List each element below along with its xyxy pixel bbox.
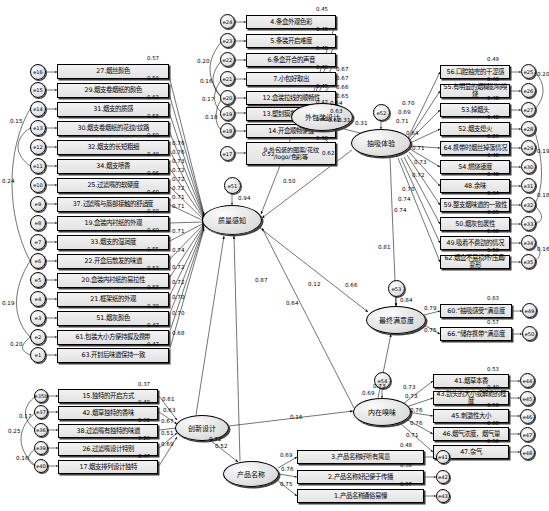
loading-38: 0.67 <box>161 418 173 424</box>
error-e49: e49 <box>522 303 537 318</box>
r2-29: 0.59 <box>147 75 159 81</box>
indicator-53: 53.掉烟头 <box>440 103 510 117</box>
loading-55: 0.69 <box>398 109 410 115</box>
loading-33: 0.71 <box>172 228 184 234</box>
loading-54: 0.73 <box>414 159 426 165</box>
error-e10: e10 <box>30 177 46 193</box>
loading-26: 0.51 <box>161 430 173 436</box>
loading-59: 0.70 <box>402 186 414 192</box>
indicator-54: 54.燃烧速度 <box>440 160 510 174</box>
error-e22: e22 <box>220 52 235 67</box>
loading-56: 0.70 <box>402 100 414 106</box>
r2-31: 0.63 <box>147 94 159 100</box>
loading-32: 0.72 <box>172 167 184 173</box>
corr-e-4: 0.16 <box>537 246 549 252</box>
error-e6: e6 <box>30 253 46 269</box>
r2-45: 0.59 <box>487 402 499 408</box>
r2-7: 0.46 <box>316 64 328 70</box>
error-e8: e8 <box>30 215 46 231</box>
loading-19: 0.71 <box>172 203 184 209</box>
r2-43: 0.49 <box>487 384 499 390</box>
corr-q-4: 0.20 <box>10 341 22 347</box>
r2-15: 0.37 <box>138 381 150 387</box>
corr-i-2: 0.25 <box>8 428 20 434</box>
r2-46: 0.60 <box>487 420 499 426</box>
path-coef-name-quality: 0.64 <box>286 300 298 306</box>
r2-2: 0.58 <box>400 462 412 468</box>
loading-29: 0.76 <box>172 140 184 146</box>
error-e3: e3 <box>30 310 46 326</box>
error-e39: e39 <box>34 441 48 455</box>
loading-52: 0.64 <box>406 130 418 136</box>
error-e32: e32 <box>521 197 536 212</box>
error-e40: e40 <box>34 459 48 473</box>
path-coef-quality-satisfaction: 0.12 <box>308 281 320 287</box>
loading-41: 0.73 <box>403 384 415 390</box>
r2-26: 0.26 <box>138 435 150 441</box>
error-e9: e9 <box>30 196 46 212</box>
path-coef-intrinsic-satisfaction: 0.73 <box>373 383 385 389</box>
r2-59: 0.64 <box>487 190 499 196</box>
r2-56: 0.49 <box>487 56 499 62</box>
error-e19: e19 <box>220 106 235 121</box>
dist-loading-e53: 0.84 <box>400 297 412 303</box>
loading-20: 0.72 <box>172 264 184 270</box>
corr-q-2: 0.24 <box>2 178 14 184</box>
r2-34: 0.49 <box>147 151 159 157</box>
r2-14: 0.41 <box>316 116 328 122</box>
error-e13: e13 <box>30 120 46 136</box>
disturbance-e52: e52 <box>373 104 390 121</box>
error-e29: e29 <box>521 140 536 155</box>
error-e45: e45 <box>520 391 535 406</box>
loading-46: 0.76 <box>410 420 422 426</box>
corr-e-2: 0.19 <box>537 148 549 154</box>
loading-13: 0.63 <box>330 108 342 114</box>
path-coef-innovation-name: 0.52 <box>215 443 227 449</box>
dist-loading-e51: 0.94 <box>238 195 250 201</box>
latent-satisfaction: 最终满意度 <box>366 306 426 334</box>
error-e46: e46 <box>520 409 535 424</box>
error-e28: e28 <box>521 121 536 136</box>
r2-38: 0.39 <box>138 417 150 423</box>
error-e44: e44 <box>520 373 535 388</box>
r2-5: 0.48 <box>316 26 328 32</box>
r2-9: 0.38 <box>316 135 328 141</box>
r2-22: 0.55 <box>147 246 159 252</box>
r2-33: 0.60 <box>147 227 159 233</box>
corr-e-1: 0.20 <box>537 71 549 77</box>
error-e24: e24 <box>220 14 235 29</box>
loading-66: 0.75 <box>424 327 436 333</box>
error-e26: e26 <box>521 83 536 98</box>
error-e14: e14 <box>30 101 46 117</box>
error-e35: e35 <box>521 254 536 269</box>
r2-66: 0.57 <box>487 319 499 325</box>
r2-19: 0.60 <box>147 208 159 214</box>
loading-51: 0.70 <box>172 294 184 300</box>
r2-6: 0.48 <box>316 45 328 51</box>
loading-5: 0.67 <box>336 75 348 81</box>
indicator-55: 55.有明显的烟糊影响嗅烧 <box>440 84 510 98</box>
r2-63: 0.47 <box>147 341 159 347</box>
error-e2: e2 <box>30 329 46 345</box>
indicator-66: 66.“储存携带”满意度 <box>440 327 512 341</box>
corr-p-1: 0.20 <box>197 58 209 64</box>
error-e31: e31 <box>521 178 536 193</box>
error-e4: e4 <box>30 291 46 307</box>
corr-p-3: 0.17 <box>202 96 214 102</box>
r2-32: 0.60 <box>147 132 159 138</box>
error-e25: e25 <box>521 64 536 79</box>
corr-e-3: 0.18 <box>537 192 549 198</box>
disturbance-e51: e51 <box>224 177 241 194</box>
r2-27: 0.57 <box>147 55 159 61</box>
loading-62: 0.81 <box>378 244 390 250</box>
loading-6: 0.66 <box>336 84 348 90</box>
indicator-17: 17.烟支排列设计独特 <box>58 460 158 474</box>
error-e35b: e35b <box>34 389 48 403</box>
error-e48: e48 <box>520 445 535 460</box>
loading-60: 0.79 <box>424 305 436 311</box>
latent-quality: 质量感知 <box>202 205 262 235</box>
loading-53: 0.71 <box>396 118 408 124</box>
indicator-49: 49.吸着不费劲的情况 <box>440 236 510 250</box>
loading-31: 0.76 <box>172 149 184 155</box>
path-coef-experience-satisfaction: 0.66 <box>345 282 357 288</box>
